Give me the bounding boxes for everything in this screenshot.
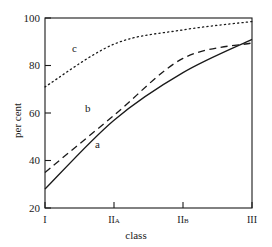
series-line-c <box>45 22 252 87</box>
x-tick-label-iia: IIa <box>100 214 128 225</box>
series-line-b-main <box>45 43 252 172</box>
x-tick-label-iib: IIb <box>169 214 197 225</box>
plot-area <box>0 0 272 247</box>
series-label-b: b <box>85 103 91 114</box>
series-line-a <box>45 39 252 189</box>
series-label-a: a <box>95 139 100 150</box>
y-axis-title: per cent <box>11 103 23 138</box>
x-axis-ticks <box>45 202 252 208</box>
chart-figure: 20 40 60 80 100 I IIa IIb III per cent c… <box>0 0 272 247</box>
x-axis-title: class <box>0 229 272 241</box>
series-line-b <box>45 131 114 174</box>
y-tick-label-100: 100 <box>12 13 40 24</box>
y-tick-label-20: 20 <box>18 203 40 214</box>
y-axis-ticks <box>45 18 51 208</box>
y-tick-label-40: 40 <box>18 155 40 166</box>
x-tick-label-i: I <box>31 214 59 225</box>
y-tick-label-80: 80 <box>18 60 40 71</box>
series-label-c: c <box>72 43 77 54</box>
x-tick-label-iii: III <box>238 214 266 225</box>
